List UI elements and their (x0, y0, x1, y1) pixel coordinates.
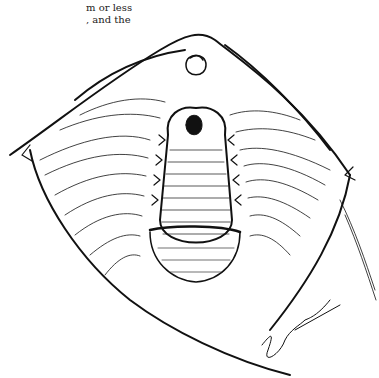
sutures (22, 135, 355, 205)
outer-contour (10, 35, 350, 375)
sutured-graft (150, 107, 240, 282)
upper-structure (186, 55, 206, 75)
hatching-right (230, 111, 376, 300)
hatching-left (40, 99, 165, 275)
artist-signature (262, 300, 340, 357)
surgical-illustration (0, 0, 379, 378)
